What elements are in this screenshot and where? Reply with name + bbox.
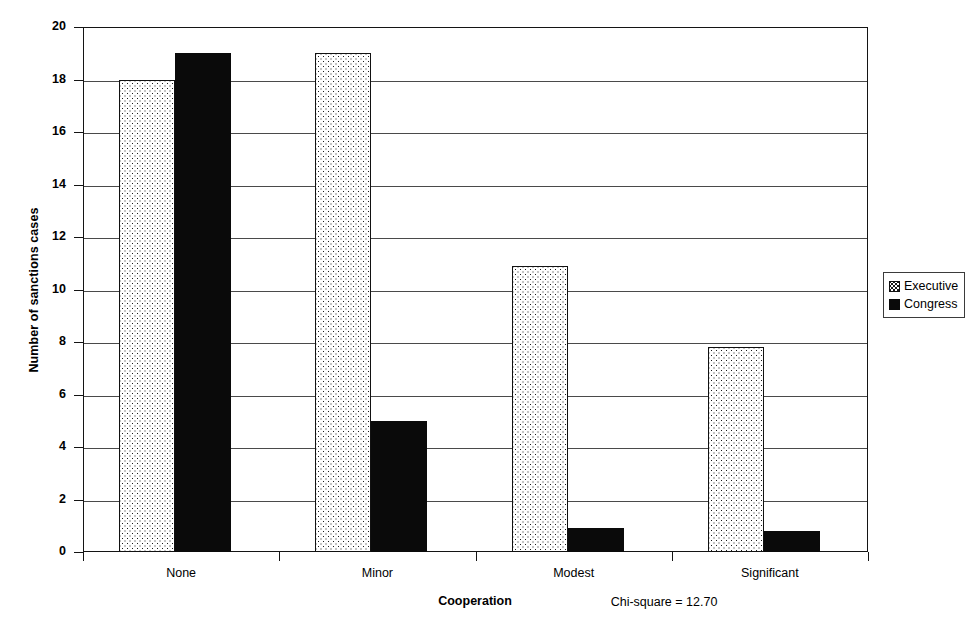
y-tick-label: 0 — [22, 545, 66, 558]
legend-label-executive: Executive — [904, 280, 958, 293]
y-tick-label: 14 — [22, 178, 66, 191]
legend-item-congress: Congress — [889, 295, 958, 313]
y-tick-mark — [74, 27, 83, 28]
x-tick-label-significant: Significant — [741, 566, 799, 580]
filled-square-icon — [889, 299, 900, 310]
y-tick-label: 18 — [22, 73, 66, 86]
y-tick-mark — [74, 395, 83, 396]
bar-chart: Number of sanctions cases 02468101214161… — [0, 0, 974, 627]
bars-layer — [83, 27, 868, 552]
bar-executive-significant — [708, 347, 764, 552]
y-tick-mark — [74, 185, 83, 186]
y-tick-label: 20 — [22, 20, 66, 33]
bar-congress-none — [175, 53, 231, 552]
bar-congress-modest — [568, 528, 624, 552]
y-tick-label: 6 — [22, 388, 66, 401]
x-tick-label-modest: Modest — [553, 566, 594, 580]
y-tick-mark — [74, 80, 83, 81]
x-tick-mark — [672, 552, 673, 561]
y-tick-mark — [74, 290, 83, 291]
y-tick-mark — [74, 237, 83, 238]
y-tick-label: 12 — [22, 230, 66, 243]
y-tick-mark — [74, 552, 83, 553]
legend-label-congress: Congress — [904, 298, 958, 311]
bar-executive-modest — [512, 266, 568, 552]
bar-executive-none — [119, 80, 175, 553]
bar-congress-significant — [764, 531, 820, 552]
bar-executive-minor — [315, 53, 371, 552]
x-tick-mark — [279, 552, 280, 561]
y-tick-label: 4 — [22, 440, 66, 453]
x-tick-label-minor: Minor — [362, 566, 393, 580]
bar-congress-minor — [371, 421, 427, 552]
x-tick-mark — [476, 552, 477, 561]
y-tick-mark — [74, 132, 83, 133]
y-tick-label: 16 — [22, 125, 66, 138]
y-tick-mark — [74, 447, 83, 448]
chi-square-annotation: Chi-square = 12.70 — [611, 595, 718, 609]
x-axis-title: Cooperation — [438, 594, 512, 608]
dotted-square-icon — [889, 281, 900, 292]
legend: Executive Congress — [883, 272, 965, 318]
y-tick-label: 10 — [22, 283, 66, 296]
y-tick-mark — [74, 500, 83, 501]
x-tick-mark — [868, 552, 869, 561]
x-tick-mark — [83, 552, 84, 561]
x-tick-label-none: None — [166, 566, 196, 580]
legend-item-executive: Executive — [889, 277, 958, 295]
y-tick-mark — [74, 342, 83, 343]
y-tick-label: 8 — [22, 335, 66, 348]
y-tick-label: 2 — [22, 493, 66, 506]
